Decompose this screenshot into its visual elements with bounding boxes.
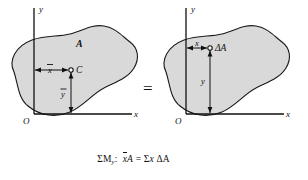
delta-a-my: ΔA [157,154,170,164]
y-axis-label-left: y [38,4,43,14]
moment-equations: ΣMy: xA = Σx ΔA ΣMx: yA = Σy ΔA [0,138,308,180]
sigma-moment-y-symbol: ΣM [97,154,111,164]
area-blob-left [12,26,137,116]
area-label: A [75,38,83,49]
area-blob-right [164,26,289,116]
x-axis-label-right: x [285,109,290,119]
xbar-term: x [123,152,127,166]
equation-row-my: ΣMy: xA = Σx ΔA [0,138,308,180]
y-dim-label: y [200,76,205,86]
origin-label-right: O [175,116,182,126]
element-marker [208,46,212,50]
ybar-label: y [60,89,65,99]
centroid-marker [69,68,73,72]
equation-my-inner: ΣMy: xA = Σx ΔA [97,152,221,169]
equals-sign: = [143,79,153,98]
y-axis-label-right: y [190,4,195,14]
left-diagram: y x O A x C y [12,4,138,126]
x-axis-label-left: x [133,109,138,119]
element-label: ΔA [214,43,227,53]
right-diagram: y x O x ΔA y [164,4,290,126]
x-dim-label: x [194,38,199,48]
xbar-label: x [47,65,52,75]
centroid-label: C [76,65,83,75]
origin-label-left: O [23,116,30,126]
